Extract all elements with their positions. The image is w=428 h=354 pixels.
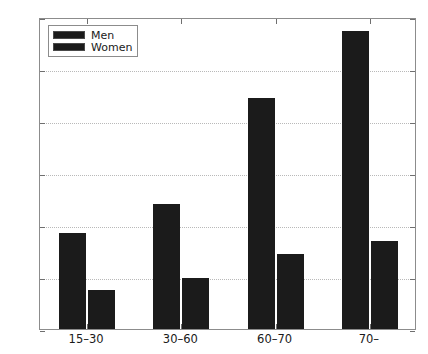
y-axis-tick [40, 71, 45, 72]
y-axis-tick-right [410, 279, 415, 280]
bar-women-0[interactable] [88, 290, 115, 329]
y-axis-tick-right [410, 175, 415, 176]
y-axis-tick-right [410, 123, 415, 124]
y-axis-tick [40, 227, 45, 228]
chart-legend[interactable]: Men Women [48, 25, 138, 57]
y-axis-tick [40, 19, 45, 20]
bar-men-2[interactable] [248, 98, 275, 329]
bar-men-3[interactable] [342, 31, 369, 329]
x-axis-label: 15–30 [69, 334, 104, 346]
y-axis-tick [40, 331, 45, 332]
x-axis-label: 60–70 [257, 334, 292, 346]
y-axis-tick-right [410, 19, 415, 20]
legend-item-women[interactable]: Women [53, 41, 132, 53]
y-axis-tick-right [410, 227, 415, 228]
bar-men-0[interactable] [59, 233, 86, 329]
figure-canvas: Men Women 02040608010012015–3030–6060–70… [0, 0, 428, 354]
x-axis-tick-top [370, 19, 371, 24]
bar-men-1[interactable] [153, 204, 180, 329]
y-axis-tick [40, 279, 45, 280]
bar-women-1[interactable] [182, 278, 209, 329]
x-axis-label: 70– [359, 334, 379, 346]
y-axis-tick [40, 175, 45, 176]
legend-item-men[interactable]: Men [53, 29, 132, 41]
x-axis-tick-top [87, 19, 88, 24]
legend-label-women: Women [91, 42, 132, 53]
y-axis-tick [40, 123, 45, 124]
legend-label-men: Men [91, 30, 114, 41]
legend-swatch-women [53, 43, 85, 51]
y-axis-tick-right [410, 71, 415, 72]
legend-swatch-men [53, 31, 85, 39]
bar-women-3[interactable] [371, 241, 398, 329]
x-axis-tick-top [181, 19, 182, 24]
x-axis-label: 30–60 [163, 334, 198, 346]
y-axis-tick-right [410, 331, 415, 332]
bar-women-2[interactable] [277, 254, 304, 329]
x-axis-tick-top [276, 19, 277, 24]
chart-plot-area: Men Women [39, 18, 416, 330]
